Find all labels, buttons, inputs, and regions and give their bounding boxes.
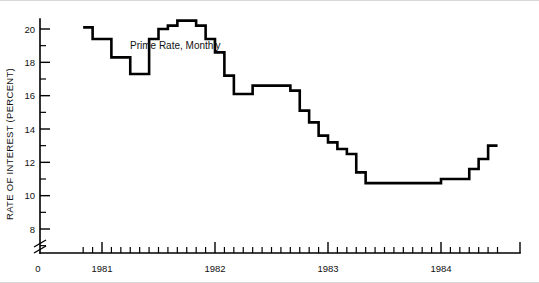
y-tick-label: 8 xyxy=(30,224,35,235)
prime-rate-chart: 8101214161820 1981198219831984 RATE OF I… xyxy=(0,1,539,283)
x-tick-label: 1981 xyxy=(91,263,112,274)
y-tick-label: 18 xyxy=(24,57,35,68)
y-tick-label: 10 xyxy=(24,190,35,201)
x-tick-label: 1984 xyxy=(430,263,451,274)
y-tick-label: 20 xyxy=(24,24,35,35)
chart-figure: 8101214161820 1981198219831984 RATE OF I… xyxy=(0,0,539,283)
x-tick-label: 1982 xyxy=(204,263,225,274)
series-annotation-label: Prime Rate, Monthly xyxy=(130,40,221,51)
y-tick-label: 12 xyxy=(24,157,35,168)
x-axis-tick-labels: 1981198219831984 xyxy=(91,263,451,274)
y-tick-label: 16 xyxy=(24,90,35,101)
x-axis-ticks xyxy=(83,242,520,253)
origin-tick-label: 0 xyxy=(35,263,40,274)
y-axis-title: RATE OF INTEREST (PERCENT) xyxy=(4,68,15,220)
x-tick-label: 1983 xyxy=(317,263,338,274)
y-tick-label: 14 xyxy=(24,124,35,135)
y-axis-ticks xyxy=(40,29,50,246)
y-axis-tick-labels: 8101214161820 xyxy=(24,24,35,235)
